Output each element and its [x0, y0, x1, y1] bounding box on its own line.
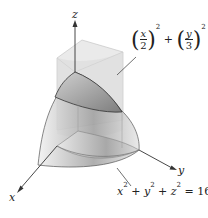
- z-axis-label: z: [72, 8, 78, 21]
- x-axis-label: x: [9, 191, 15, 204]
- cylinder-equation: (x2)2 + (y3)2 = 1: [131, 28, 208, 51]
- sphere-equation: x2 + y2 + z2 = 16: [117, 186, 208, 197]
- sphere-octant: [38, 72, 139, 167]
- y-axis-label: y: [178, 164, 184, 177]
